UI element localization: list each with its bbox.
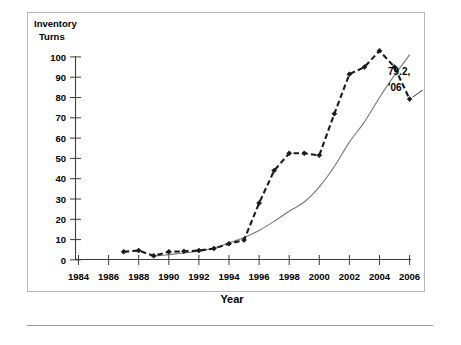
series-thin-solid-line: [154, 55, 410, 256]
y-tick-label: 30: [55, 194, 66, 205]
data-point-marker: [302, 151, 307, 156]
y-tick-label: 90: [55, 72, 66, 83]
x-tick-label: 2006: [399, 271, 420, 282]
annotation-value-line2: '06: [388, 82, 402, 93]
y-axis-title-line1: Inventory: [34, 18, 77, 29]
y-tick-label: 10: [55, 234, 66, 245]
x-tick-label: 1988: [128, 271, 149, 282]
x-axis-tick-labels: 1984 1986 1988 1990 1992 1994 1996 1998 …: [68, 271, 420, 282]
y-tick-label: 50: [55, 153, 66, 164]
annotation-group: 79.2, '06: [388, 66, 423, 97]
y-tick-label: 70: [55, 112, 66, 123]
footer-divider-rule: [27, 325, 433, 326]
x-tick-label: 2004: [369, 271, 391, 282]
y-tick-label: 40: [55, 173, 66, 184]
y-tick-label: 20: [55, 214, 66, 225]
inventory-turns-line-chart: Inventory Turns 100 90 80 70 60 50 40: [0, 0, 461, 345]
data-point-marker: [211, 246, 216, 251]
dashed-series-path: [124, 51, 410, 256]
data-point-marker: [317, 153, 322, 158]
y-tick-label: 60: [55, 133, 66, 144]
data-point-marker: [196, 248, 201, 253]
series-dashed-line: [124, 51, 410, 256]
x-tick-label: 1992: [188, 271, 209, 282]
annotation-leader-line: [413, 90, 423, 97]
y-tick-label: 80: [55, 92, 66, 103]
x-tick-label: 1990: [158, 271, 179, 282]
x-tick-label: 2000: [309, 271, 330, 282]
x-tick-label: 2002: [339, 271, 360, 282]
data-point-marker: [166, 249, 171, 254]
x-axis-title: Year: [220, 293, 244, 305]
annotation-value-line1: 79.2,: [388, 66, 410, 77]
series-diamond-markers: [121, 48, 412, 258]
figure-container: Inventory Turns 100 90 80 70 60 50 40: [0, 0, 461, 345]
data-point-marker: [151, 253, 156, 258]
data-point-marker: [407, 97, 412, 102]
y-axis-title-line2: Turns: [39, 31, 65, 42]
thin-solid-series-path: [154, 55, 410, 256]
x-tick-label: 1986: [98, 271, 119, 282]
y-tick-label: 0: [61, 255, 66, 266]
data-point-marker: [136, 248, 141, 253]
y-tick-label: 100: [50, 52, 66, 63]
x-tick-label: 1996: [249, 271, 270, 282]
x-tick-label: 1984: [68, 271, 90, 282]
x-tick-label: 1994: [218, 271, 240, 282]
data-point-marker: [121, 249, 126, 254]
x-tick-label: 1998: [279, 271, 300, 282]
y-axis-tick-labels: 100 90 80 70 60 50 40 30 20 10 0: [50, 52, 66, 266]
